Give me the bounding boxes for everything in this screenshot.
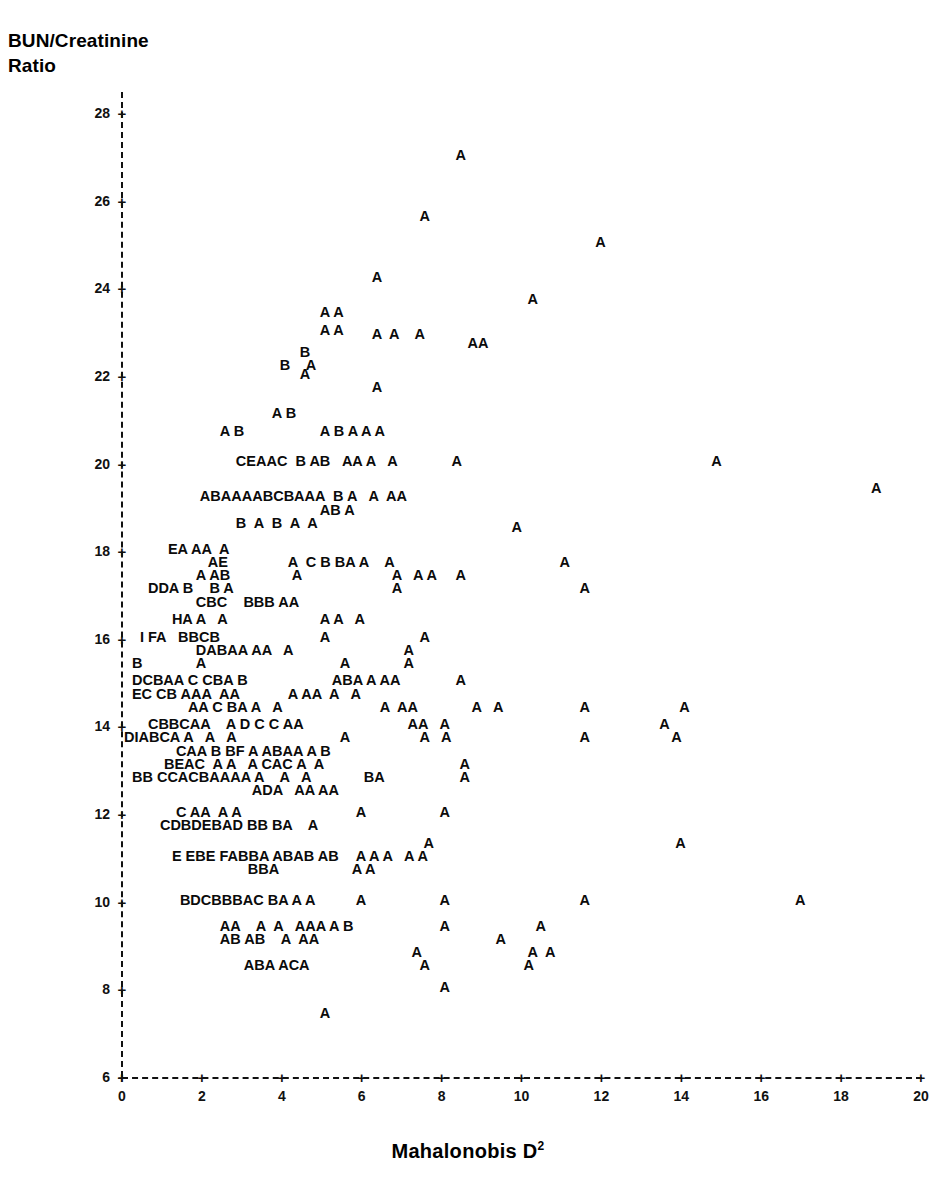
- data-point-glyph-row: A: [659, 717, 669, 732]
- data-point-glyph-row: BA: [364, 770, 385, 785]
- data-point-glyph-row: A: [671, 730, 681, 745]
- data-point-glyph-row: A: [511, 520, 521, 535]
- character-scatter-plot: BUN/Creatinine Ratio +28+26+24+22+20+18+…: [0, 0, 936, 1196]
- data-point-glyph-row: B A: [280, 358, 317, 373]
- data-point-glyph-row: A: [579, 892, 589, 907]
- data-point-glyph-row: CBC BBB AA: [196, 594, 299, 609]
- data-point-glyph-row: A: [420, 629, 430, 644]
- data-point-glyph-row: A: [440, 805, 450, 820]
- data-point-glyph-row: A: [452, 454, 462, 469]
- data-point-glyph-row: A: [456, 673, 466, 688]
- data-point-glyph-row: A C B BA A A: [288, 555, 395, 570]
- data-point-glyph-row: A: [300, 366, 310, 381]
- x-axis-title-superscript: 2: [538, 1139, 545, 1153]
- data-point-glyph-row: A A: [320, 305, 344, 320]
- data-point-glyph-row: A: [340, 656, 350, 671]
- data-point-glyph-row: A: [420, 958, 430, 973]
- data-point-glyph-row: A: [579, 581, 589, 596]
- data-point-glyph-row: A AA: [380, 699, 418, 714]
- x-axis-title: Mahalonobis D2: [0, 1139, 936, 1163]
- data-point-glyph-row: A: [527, 292, 537, 307]
- data-point-glyph-row: DABAA AA A: [196, 643, 294, 658]
- data-point-glyph-row: A: [420, 209, 430, 224]
- data-point-glyph-row: A A: [352, 862, 376, 877]
- x-axis-title-text: Mahalonobis D: [391, 1140, 537, 1162]
- data-point-glyph-row: B: [132, 656, 142, 671]
- data-point-glyph-row: HA A A: [172, 612, 228, 627]
- data-point-glyph-row: ABAAAABCBAAA B A A AA: [200, 489, 407, 504]
- data-point-glyph-row: AB A: [320, 502, 355, 517]
- data-point-glyph-row: A: [579, 730, 589, 745]
- data-point-glyph-row: A: [523, 958, 533, 973]
- data-point-glyph-row: AB AB A AA: [220, 932, 319, 947]
- data-point-glyph-row: A: [460, 770, 470, 785]
- data-point-glyph-row: A: [456, 147, 466, 162]
- data-point-glyph-row: A: [356, 892, 366, 907]
- data-point-glyph-row: A: [340, 730, 350, 745]
- data-point-glyph-row: A: [440, 892, 450, 907]
- data-point-glyph-row: A: [579, 699, 589, 714]
- data-point-glyph-row: A: [292, 568, 302, 583]
- data-point-glyph-row: A: [196, 656, 206, 671]
- data-point-glyph-row: A: [372, 380, 382, 395]
- data-point-glyph-row: A: [675, 835, 685, 850]
- data-point-glyph-row: A A: [320, 323, 344, 338]
- data-point-glyph-row: A: [356, 805, 366, 820]
- data-point-glyph-row: A: [456, 568, 466, 583]
- data-point-glyph-row: BBA: [248, 862, 279, 877]
- data-point-glyph-row: A A: [472, 699, 504, 714]
- data-point-glyph-row: AA C BA A A: [188, 699, 283, 714]
- data-point-layer: AAAAAA AA AA A AAABB AAAA BA BA B A A AC…: [0, 0, 936, 1196]
- data-point-glyph-row: A A: [420, 730, 452, 745]
- data-point-glyph-row: A: [871, 480, 881, 495]
- data-point-glyph-row: A: [595, 235, 605, 250]
- data-point-glyph-row: A A A: [320, 612, 365, 627]
- data-point-glyph-row: A: [559, 555, 569, 570]
- data-point-glyph-row: A: [404, 656, 414, 671]
- data-point-glyph-row: A: [495, 932, 505, 947]
- data-point-glyph-row: A: [320, 629, 330, 644]
- data-point-glyph-row: ADA AA AA: [252, 783, 339, 798]
- data-point-glyph-row: ABA ACA: [244, 958, 310, 973]
- data-point-glyph-row: A B: [272, 406, 296, 421]
- data-point-glyph-row: A: [440, 919, 450, 934]
- data-point-glyph-row: A: [392, 581, 402, 596]
- data-point-glyph-row: A B A A A: [320, 423, 385, 438]
- data-point-glyph-row: A: [535, 919, 545, 934]
- data-point-glyph-row: A: [679, 699, 689, 714]
- data-point-glyph-row: BDCBBBAC BA A A: [180, 892, 316, 907]
- data-point-glyph-row: CDBDEBAD BB BA A: [160, 818, 318, 833]
- data-point-glyph-row: AA: [468, 336, 489, 351]
- data-point-glyph-row: B A B A A: [236, 515, 318, 530]
- data-point-glyph-row: A A A: [372, 327, 425, 342]
- data-point-glyph-row: A: [372, 270, 382, 285]
- data-point-glyph-row: A: [711, 454, 721, 469]
- data-point-glyph-row: CEAAC B AB AA A A: [236, 454, 398, 469]
- data-point-glyph-row: A B: [220, 423, 244, 438]
- data-point-glyph-row: A: [440, 980, 450, 995]
- data-point-glyph-row: A: [320, 1006, 330, 1021]
- data-point-glyph-row: A: [795, 892, 805, 907]
- data-point-glyph-row: A AA A A: [288, 686, 361, 701]
